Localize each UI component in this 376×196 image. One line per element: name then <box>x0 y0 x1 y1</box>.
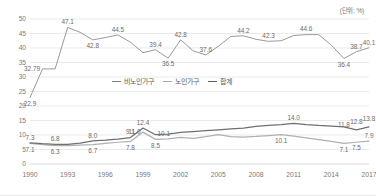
data-label: 36.5 <box>162 60 175 67</box>
data-label: 12.4 <box>137 119 150 126</box>
data-label: 44.5 <box>112 26 125 33</box>
x-axis-tick: 2005 <box>211 171 226 178</box>
data-label: 7.8 <box>126 144 135 151</box>
data-label: 6.7 <box>88 147 97 154</box>
data-label: 8.0 <box>88 132 97 139</box>
data-label: 40.1 <box>363 39 376 46</box>
data-label: 44.2 <box>237 27 250 34</box>
data-label: 7.3 <box>26 134 35 141</box>
data-label: 11.8 <box>338 121 350 128</box>
data-label: 7.1 <box>339 146 348 153</box>
y-axis-tick: 50 <box>19 15 27 22</box>
legend-swatch-icon <box>208 81 217 82</box>
x-axis-tick: 2014 <box>324 171 339 178</box>
data-label: 32.79 <box>24 65 40 72</box>
y-axis-tick: 40 <box>19 44 27 51</box>
y-axis-tick: 30 <box>19 73 27 80</box>
y-axis-tick: 15 <box>19 117 27 124</box>
data-label: 10.1 <box>158 130 171 137</box>
legend-swatch-icon <box>112 81 121 82</box>
legend-item-0: 비노인가구 <box>112 76 154 86</box>
data-label: 42.8 <box>87 42 100 49</box>
data-label: 42.8 <box>174 31 187 38</box>
legend-label-0: 비노인가구 <box>124 76 154 86</box>
legend-swatch-icon <box>163 81 172 82</box>
x-axis-tick: 2011 <box>286 171 301 178</box>
series-line-노인가구 <box>30 132 369 146</box>
data-label: 37.6 <box>200 46 213 53</box>
legend-item-2: 합계 <box>208 76 232 86</box>
data-label: 12.8 <box>350 118 363 125</box>
y-axis-tick: 45 <box>19 30 27 37</box>
legend-item-1: 노인가구 <box>163 76 199 86</box>
data-label: 42.3 <box>262 32 275 39</box>
series-line-비노인가구 <box>30 123 369 144</box>
data-label: 7.9 <box>365 132 374 139</box>
x-axis-tick: 1996 <box>98 171 113 178</box>
y-axis-tick: 0 <box>22 160 26 167</box>
data-label: 7.5 <box>352 144 361 151</box>
x-axis-tick: 1999 <box>135 171 150 178</box>
data-label: 47.1 <box>61 18 74 25</box>
data-label: 7.1 <box>26 146 35 153</box>
data-label: 6.3 <box>51 148 60 155</box>
x-axis-tick: 1993 <box>60 171 75 178</box>
legend-label-2: 합계 <box>220 76 232 86</box>
data-label: 39.4 <box>149 41 162 48</box>
data-label: 10.1 <box>275 137 288 144</box>
data-label: 44.6 <box>300 25 313 32</box>
x-axis-tick: 2017 <box>361 171 376 178</box>
y-axis-tick: 25 <box>19 88 27 95</box>
data-label: 6.8 <box>51 135 60 142</box>
chart-card: (단위: %) 05101520253035404550199019931996… <box>0 0 376 196</box>
x-axis-tick: 2008 <box>248 171 263 178</box>
data-label: 36.4 <box>338 61 351 68</box>
data-label: 14.0 <box>287 114 300 121</box>
legend-label-1: 노인가구 <box>175 76 199 86</box>
line-chart-plot: 0510152025303540455019901993199619992002… <box>0 0 376 196</box>
data-label: 38.7 <box>350 43 363 50</box>
data-label: 22.9 <box>24 100 37 107</box>
data-label: 13.8 <box>363 115 376 122</box>
data-label: 8.5 <box>151 142 160 149</box>
x-axis-tick: 2002 <box>173 171 188 178</box>
data-label: 11.0 <box>129 128 141 135</box>
x-axis-tick: 1990 <box>22 171 37 178</box>
chart-legend: 비노인가구 노인가구 합계 <box>112 76 232 86</box>
